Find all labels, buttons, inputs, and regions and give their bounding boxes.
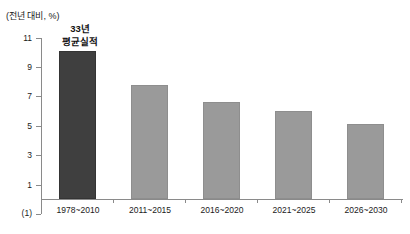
x-tick-mark-3	[257, 199, 258, 203]
y-tick-mark-5	[36, 126, 41, 127]
y-tick-mark-1	[36, 185, 41, 186]
bar-chart: (전년 대비, %) 11 9 7 5 3 1 (1) 1978~2010 2	[0, 0, 410, 234]
y-tick-label-11: 11	[2, 34, 32, 43]
bar-2021-2025	[275, 111, 312, 199]
y-tick-label-7: 7	[2, 92, 32, 101]
bar-annotation-line2: 평균실적	[38, 35, 122, 48]
x-tick-mark-4	[329, 199, 330, 203]
bar-1978-2010	[59, 51, 96, 199]
y-tick-label-9: 9	[2, 63, 32, 72]
x-tick-mark-2	[185, 199, 186, 203]
bar-annotation-label: 33년 평균실적	[38, 22, 122, 48]
x-tick-mark-5	[401, 199, 402, 203]
x-tick-mark-1	[113, 199, 114, 203]
plot-area: 11 9 7 5 3 1 (1) 1978~2010 2011~2015 201…	[0, 0, 410, 234]
x-axis-label-5: 2026~2030	[323, 205, 409, 216]
bar-2026-2030	[347, 124, 384, 199]
y-tick-mark-3	[36, 155, 41, 156]
y-tick-label-1: 1	[2, 181, 32, 190]
bar-annotation-line1: 33년	[38, 22, 122, 35]
y-tick-label-5: 5	[2, 122, 32, 131]
y-tick-label-neg1: (1)	[2, 209, 32, 218]
y-axis-line	[41, 38, 42, 214]
y-tick-mark-7	[36, 96, 41, 97]
x-axis-line	[41, 199, 403, 200]
y-tick-mark-9	[36, 67, 41, 68]
y-tick-label-3: 3	[2, 151, 32, 160]
bar-2016-2020	[203, 102, 240, 199]
bar-2011-2015	[131, 85, 168, 199]
